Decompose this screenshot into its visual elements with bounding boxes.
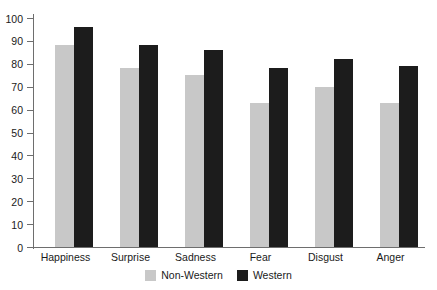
bar-group — [380, 18, 418, 247]
bar-non-western-disgust — [315, 87, 334, 247]
x-axis-label-disgust: Disgust — [293, 252, 358, 263]
x-axis-label-anger: Anger — [358, 252, 423, 263]
legend-swatch-icon — [145, 270, 156, 281]
bar-group — [55, 18, 93, 247]
bar-non-western-anger — [380, 103, 399, 247]
x-axis-label-surprise: Surprise — [98, 252, 163, 263]
bar-western-disgust — [334, 59, 353, 247]
chart-legend: Non-WesternWestern — [0, 270, 437, 281]
bar-western-surprise — [139, 45, 158, 247]
x-axis-line — [33, 247, 425, 248]
bar-group — [185, 18, 223, 247]
plot-area — [33, 18, 423, 247]
y-axis-tick-label: 60 — [11, 105, 23, 116]
bar-western-sadness — [204, 50, 223, 247]
bar-chart: 1009080706050403020100 HappinessSurprise… — [0, 0, 437, 290]
bar-group — [120, 18, 158, 247]
y-axis-tick-label: 50 — [11, 128, 23, 139]
bar-western-anger — [399, 66, 418, 247]
bar-group — [315, 18, 353, 247]
x-axis-label-fear: Fear — [228, 252, 293, 263]
legend-item-western[interactable]: Western — [237, 270, 292, 281]
bar-non-western-surprise — [120, 68, 139, 247]
legend-swatch-icon — [237, 270, 248, 281]
legend-item-non-western[interactable]: Non-Western — [145, 270, 223, 281]
legend-label: Non-Western — [161, 270, 223, 281]
x-axis-label-sadness: Sadness — [163, 252, 228, 263]
bar-non-western-fear — [250, 103, 269, 247]
y-axis-tick-label: 40 — [11, 151, 23, 162]
bar-western-fear — [269, 68, 288, 247]
y-axis-tick-label: 20 — [11, 196, 23, 207]
y-axis-tick-label: 70 — [11, 82, 23, 93]
bar-non-western-happiness — [55, 45, 74, 247]
y-axis-tick-label: 30 — [11, 174, 23, 185]
bar-group — [250, 18, 288, 247]
y-axis-tick-label: 100 — [5, 13, 23, 24]
y-axis-tick: 0 — [27, 247, 33, 248]
y-axis-tick-label: 90 — [11, 36, 23, 47]
y-axis-tick-label: 10 — [11, 219, 23, 230]
y-axis-tick-label: 0 — [17, 242, 23, 253]
bar-western-happiness — [74, 27, 93, 247]
x-axis-label-happiness: Happiness — [33, 252, 98, 263]
legend-label: Western — [253, 270, 292, 281]
bar-non-western-sadness — [185, 75, 204, 247]
y-axis-tick-label: 80 — [11, 59, 23, 70]
